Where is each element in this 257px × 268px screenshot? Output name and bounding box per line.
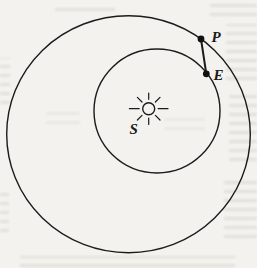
scanned-page: P E S	[0, 0, 257, 268]
orbit-diagram: P E S	[0, 0, 257, 268]
point-e-label: E	[213, 67, 224, 83]
point-p-label: P	[212, 29, 222, 45]
sun-icon	[129, 93, 168, 124]
sun-label: S	[130, 121, 138, 137]
inner-orbit-circle	[94, 49, 220, 173]
point-p-dot	[198, 36, 205, 43]
outer-orbit-circle	[7, 16, 251, 253]
point-e-dot	[203, 70, 210, 77]
